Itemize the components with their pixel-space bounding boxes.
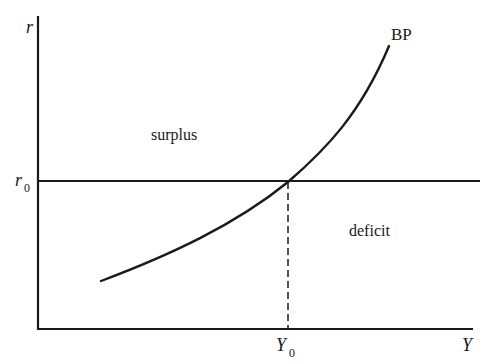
surplus-label: surplus: [151, 126, 197, 144]
r0-subscript: 0: [24, 181, 30, 195]
r0-label: r: [15, 170, 23, 190]
y-axis-label: r: [26, 17, 34, 37]
y0-subscript: 0: [289, 346, 295, 360]
bp-curve: [101, 46, 389, 281]
bp-curve-label: BP: [391, 25, 412, 44]
bp-diagram: r Y r 0 Y 0 BP surplus deficit: [0, 0, 485, 364]
deficit-label: deficit: [349, 222, 390, 239]
x-axis-label: Y: [462, 335, 474, 355]
y0-label: Y: [276, 335, 288, 355]
